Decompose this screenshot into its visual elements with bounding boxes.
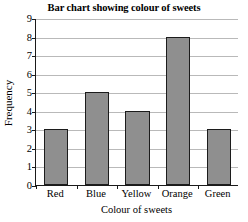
bar-green xyxy=(207,129,231,185)
bar-blue xyxy=(85,92,109,185)
y-axis-title: Frequency xyxy=(2,79,14,125)
x-tick-label-blue: Blue xyxy=(86,188,106,201)
y-axis-title-wrap: Frequency xyxy=(0,19,16,186)
bar-chart: Bar chart showing colour of sweets Frequ… xyxy=(0,0,248,222)
bar-series xyxy=(36,19,238,185)
bar-yellow xyxy=(125,111,149,185)
x-axis-tick-labels: RedBlueYellowOrangeGreen xyxy=(35,188,238,203)
y-axis-tick-labels: 0123456789 xyxy=(16,19,33,186)
plot-area xyxy=(35,19,238,186)
x-tick-label-red: Red xyxy=(47,188,64,201)
bar-red xyxy=(44,129,68,185)
chart-title: Bar chart showing colour of sweets xyxy=(0,2,248,13)
x-tick-label-yellow: Yellow xyxy=(122,188,152,201)
x-tick-label-orange: Orange xyxy=(162,188,193,201)
bar-orange xyxy=(166,37,190,185)
x-axis-title: Colour of sweets xyxy=(35,204,238,215)
x-tick-label-green: Green xyxy=(205,188,231,201)
